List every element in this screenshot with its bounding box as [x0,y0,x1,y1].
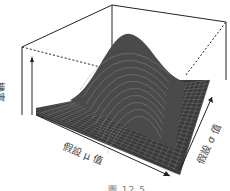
figure-caption: 圖 12.5 [108,183,146,191]
surface-plot [0,0,230,191]
z-axis-label: 機率 [0,82,8,102]
